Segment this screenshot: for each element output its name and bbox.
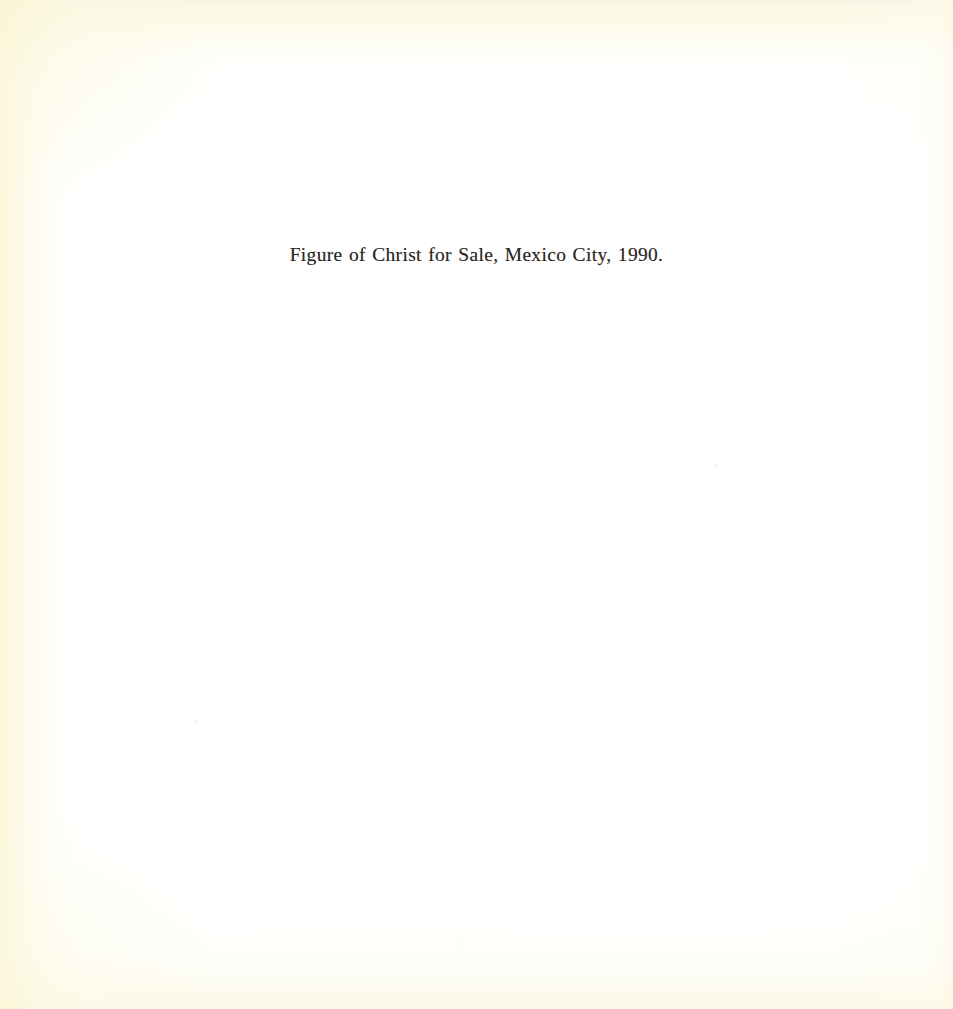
scan-speck bbox=[792, 376, 794, 378]
scan-speck bbox=[714, 464, 717, 467]
scan-speck bbox=[461, 943, 463, 945]
scan-speck bbox=[423, 107, 425, 109]
scan-speck bbox=[696, 74, 698, 76]
scan-speck bbox=[194, 720, 197, 723]
scanned-page: Figure of Christ for Sale, Mexico City, … bbox=[0, 0, 953, 1009]
scan-speck bbox=[595, 680, 597, 682]
scan-speck bbox=[371, 857, 373, 859]
caption-block: Figure of Christ for Sale, Mexico City, … bbox=[0, 243, 953, 266]
page-vignette-corner-top-left bbox=[0, 0, 230, 210]
scan-speck bbox=[251, 777, 253, 779]
page-vignette-left bbox=[0, 0, 160, 1009]
scan-speck bbox=[230, 132, 232, 134]
page-vignette-corner-bottom-left bbox=[0, 809, 220, 1009]
scan-speck bbox=[146, 605, 148, 607]
scan-speck bbox=[446, 591, 448, 593]
page-vignette-right bbox=[833, 0, 953, 1009]
photo-caption: Figure of Christ for Sale, Mexico City, … bbox=[290, 243, 664, 266]
page-vignette-top bbox=[0, 0, 953, 150]
scan-speck bbox=[107, 283, 109, 285]
page-vignette-bottom bbox=[0, 859, 953, 1009]
scan-speck bbox=[455, 175, 457, 177]
